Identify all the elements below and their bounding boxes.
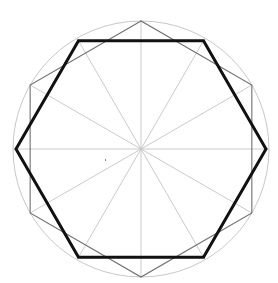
spoke-line — [77, 149, 141, 260]
stray-dot — [105, 159, 106, 161]
spoke-line — [141, 149, 205, 260]
spoke-line — [141, 38, 205, 149]
geometry-diagram — [0, 0, 278, 283]
spoke-line — [77, 38, 141, 149]
radial-spokes — [13, 21, 269, 277]
